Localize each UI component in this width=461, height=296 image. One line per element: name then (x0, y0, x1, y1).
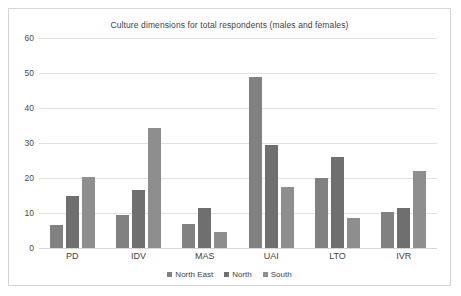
legend-swatch-icon (167, 272, 172, 277)
legend-item[interactable]: South (263, 270, 292, 279)
legend-swatch-icon (224, 272, 229, 277)
legend-swatch-icon (263, 272, 268, 277)
x-axis-category-labels: PDIDVMASUAILTOIVR (39, 251, 437, 261)
bar[interactable] (116, 215, 129, 248)
bar[interactable] (132, 190, 145, 248)
bar-group (39, 38, 105, 248)
chart-legend: North EastNorthSouth (9, 270, 450, 279)
bar[interactable] (182, 224, 195, 249)
bar[interactable] (214, 232, 227, 248)
legend-label: North (232, 270, 252, 279)
y-axis-tick: 10 (25, 208, 34, 218)
bar-group (172, 38, 238, 248)
bar[interactable] (265, 145, 278, 248)
bar[interactable] (397, 208, 410, 248)
bar-groups (39, 38, 437, 248)
bar[interactable] (66, 196, 79, 249)
x-axis-label: MAS (172, 251, 238, 261)
x-axis-label: IVR (371, 251, 437, 261)
bar[interactable] (249, 77, 262, 248)
bar[interactable] (381, 212, 394, 248)
x-axis-label: PD (39, 251, 105, 261)
bar-group (304, 38, 370, 248)
x-axis-label: IDV (105, 251, 171, 261)
bar[interactable] (148, 128, 161, 248)
bar[interactable] (315, 178, 328, 248)
plot-area: 0102030405060 (39, 38, 437, 248)
y-axis-tick: 20 (25, 173, 34, 183)
bar[interactable] (281, 187, 294, 248)
legend-label: North East (175, 270, 213, 279)
bar-group (371, 38, 437, 248)
bar[interactable] (331, 157, 344, 248)
bar[interactable] (82, 177, 95, 248)
chart-frame: Culture dimensions for total respondents… (8, 8, 451, 286)
bar[interactable] (50, 225, 63, 248)
bar-group (238, 38, 304, 248)
legend-label: South (271, 270, 292, 279)
x-axis-label: UAI (238, 251, 304, 261)
bar[interactable] (413, 171, 426, 248)
y-axis-tick: 30 (25, 138, 34, 148)
bar-group (105, 38, 171, 248)
y-axis-tick: 60 (25, 33, 34, 43)
gridline (39, 248, 437, 249)
chart-title: Culture dimensions for total respondents… (9, 20, 450, 30)
legend-item[interactable]: North East (167, 270, 213, 279)
y-axis-tick: 40 (25, 103, 34, 113)
y-axis-tick: 50 (25, 68, 34, 78)
x-axis-label: LTO (304, 251, 370, 261)
y-axis-tick: 0 (29, 243, 34, 253)
bar[interactable] (347, 218, 360, 248)
bar[interactable] (198, 208, 211, 248)
legend-item[interactable]: North (224, 270, 252, 279)
